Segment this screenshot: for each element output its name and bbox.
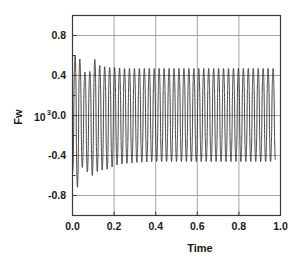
x-axis-title: Time <box>187 242 212 254</box>
y-tick-label: -0.8 <box>48 189 66 201</box>
x-tick-label: 0.4 <box>148 220 163 232</box>
x-tick-label: 0.6 <box>190 220 205 232</box>
y-tick-label: 0.0 <box>51 109 66 121</box>
x-tick-label: 0.8 <box>232 220 247 232</box>
chart-figure: 0.8 0.4 0.0 -0.4 -0.8 0.0 0.2 0.4 0.6 0.… <box>0 0 304 264</box>
y-axis-scale-base: 10 <box>34 111 46 123</box>
y-axis-title: Fw <box>12 109 24 125</box>
x-tick-label: 0.2 <box>107 220 122 232</box>
x-tick-label: 1.0 <box>273 220 288 232</box>
x-tick-label: 0.0 <box>65 220 80 232</box>
y-tick-label: 0.8 <box>51 29 66 41</box>
y-tick-label: 0.4 <box>51 69 66 81</box>
y-tick-label: -0.4 <box>48 149 66 161</box>
waveform-plot: 0.8 0.4 0.0 -0.4 -0.8 0.0 0.2 0.4 0.6 0.… <box>0 0 304 264</box>
y-axis-scale-exponent: 3 <box>47 109 51 116</box>
